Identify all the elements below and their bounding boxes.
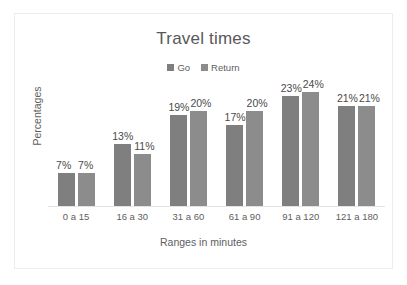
legend-label-return: Return	[211, 62, 240, 73]
x-axis-label-91-a-120: 91 a 120	[273, 211, 329, 222]
legend-swatch-go	[167, 64, 174, 71]
legend-entry-go[interactable]: Go	[167, 62, 190, 73]
chart-container: Travel times Go Return Percentages 7%7%1…	[0, 0, 407, 285]
bar-pair	[273, 82, 329, 206]
x-axis-tick-labels: 0 a 1516 a 3031 a 6061 a 9091 a 120121 a…	[48, 211, 385, 229]
bar-go-121-a-180[interactable]	[338, 106, 355, 206]
chart-legend: Go Return	[0, 62, 407, 73]
legend-label-go: Go	[177, 62, 190, 73]
y-axis-title: Percentages	[31, 71, 43, 161]
bar-go-0-a-15[interactable]	[58, 173, 75, 206]
bar-group: 13%11%	[104, 82, 160, 206]
bar-go-31-a-60[interactable]	[170, 115, 187, 206]
x-axis-line	[48, 206, 385, 207]
bar-group: 17%20%	[217, 82, 273, 206]
x-axis-label-61-a-90: 61 a 90	[217, 211, 273, 222]
chart-title: Travel times	[0, 29, 407, 49]
bar-return-31-a-60[interactable]	[190, 111, 207, 206]
x-axis-label-121-a-180: 121 a 180	[329, 211, 385, 222]
bar-return-121-a-180[interactable]	[358, 106, 375, 206]
legend-swatch-return	[201, 64, 208, 71]
bar-pair	[104, 82, 160, 206]
bar-pair	[160, 82, 216, 206]
bar-return-16-a-30[interactable]	[134, 154, 151, 206]
bar-group: 7%7%	[48, 82, 104, 206]
bar-pair	[48, 82, 104, 206]
bar-go-91-a-120[interactable]	[282, 96, 299, 206]
legend-entry-return[interactable]: Return	[201, 62, 240, 73]
bar-return-91-a-120[interactable]	[302, 92, 319, 206]
x-axis-label-31-a-60: 31 a 60	[160, 211, 216, 222]
x-axis-label-16-a-30: 16 a 30	[104, 211, 160, 222]
plot-area: 7%7%13%11%19%20%17%20%23%24%21%21%	[48, 82, 385, 206]
x-axis-title: Ranges in minutes	[0, 236, 407, 248]
x-axis-label-0-a-15: 0 a 15	[48, 211, 104, 222]
bar-return-61-a-90[interactable]	[246, 111, 263, 206]
bar-go-61-a-90[interactable]	[226, 125, 243, 206]
bar-pair	[217, 82, 273, 206]
bar-go-16-a-30[interactable]	[114, 144, 131, 206]
bar-return-0-a-15[interactable]	[78, 173, 95, 206]
bar-group: 21%21%	[329, 82, 385, 206]
bar-group: 23%24%	[273, 82, 329, 206]
bar-group: 19%20%	[160, 82, 216, 206]
bar-pair	[329, 82, 385, 206]
